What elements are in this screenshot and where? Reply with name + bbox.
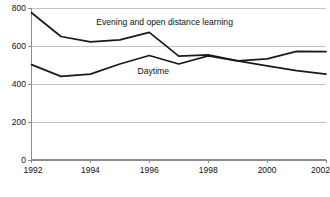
chart-canvas: 0200400600800 199219941996199820002002 E…	[0, 0, 330, 197]
y-tick-label-800: 800	[12, 3, 26, 13]
x-tick-label-2002: 2002	[311, 165, 330, 175]
x-tick-label-1998: 1998	[199, 165, 218, 175]
x-axis-tick-labels: 199219941996199820002002	[24, 160, 330, 175]
y-tick-label-600: 600	[12, 41, 26, 51]
x-tick-label-1994: 1994	[81, 165, 100, 175]
y-tick-label-0: 0	[21, 155, 26, 165]
y-tick-label-400: 400	[12, 79, 26, 89]
y-axis-tick-labels: 0200400600800	[12, 3, 32, 165]
x-tick-label-1996: 1996	[140, 165, 159, 175]
y-tick-label-200: 200	[12, 117, 26, 127]
series-line-daytime	[32, 56, 327, 77]
x-tick-label-1992: 1992	[24, 165, 43, 175]
line-chart-figure: 0200400600800 199219941996199820002002 E…	[0, 0, 330, 197]
x-tick-label-2000: 2000	[258, 165, 277, 175]
series-inline-labels: Evening and open distance learningDaytim…	[96, 17, 233, 76]
series-annotation-evening: Evening and open distance learning	[96, 17, 233, 27]
series-annotation-daytime: Daytime	[138, 66, 170, 76]
